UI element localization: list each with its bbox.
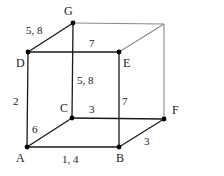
edge-weight-d-a: 2 [13,95,19,107]
edge-weight-c-f: 3 [89,103,95,115]
cube-graph-canvas: 5, 875, 826371, 43ABCDEFG [0,0,224,176]
edge-b-f [119,119,164,147]
edge-e-h [119,24,164,52]
vertex-label-a: A [16,151,25,165]
vertex-label-e: E [123,56,130,70]
edge-weight-d-e: 7 [89,37,95,49]
vertex-f-dot [162,117,167,122]
edge-weight-g-c: 5, 8 [77,74,94,86]
vertex-label-f: F [172,103,179,117]
edge-weight-a-c: 6 [32,123,38,135]
vertex-e-dot [117,50,122,55]
vertex-c-dot [70,116,75,121]
vertex-b-dot [117,145,122,150]
cube-diagram: 5, 875, 826371, 43ABCDEFG [0,0,224,176]
vertex-a-dot [25,145,30,150]
labels-layer: 5, 875, 826371, 43ABCDEFG [13,4,179,165]
edge-d-a [27,52,28,147]
edge-weight-a-b: 1, 4 [62,153,79,165]
vertex-label-d: D [16,56,25,70]
vertex-label-b: B [116,151,124,165]
edge-g-c [72,23,73,118]
edge-weight-b-f: 3 [144,135,150,147]
edge-weight-e-b: 7 [122,95,128,107]
vertex-d-dot [26,50,31,55]
vertex-label-c: C [60,101,68,115]
edge-c-f [72,118,164,119]
vertex-label-g: G [64,4,73,18]
edge-g-h [73,23,164,24]
edges-layer [27,23,164,147]
edge-weight-d-g: 5, 8 [26,24,43,36]
vertex-g-dot [71,21,76,26]
